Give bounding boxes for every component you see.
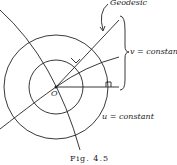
u-constant-label: u = constant: [102, 112, 154, 121]
right-angle-mark-1: [71, 58, 80, 63]
figure-caption: Fig. 4.5: [70, 154, 109, 163]
right-angle-mark-2: [106, 82, 111, 87]
geodesic-label: Geodesic: [110, 0, 147, 7]
origin-label: O: [51, 89, 58, 98]
radial-geodesic-upper: [56, 20, 119, 87]
u-constant-curve: [0, 10, 80, 150]
geodesic-polar-diagram: [0, 0, 177, 165]
brace: [120, 16, 129, 90]
v-constant-label: v = constant: [130, 47, 177, 56]
